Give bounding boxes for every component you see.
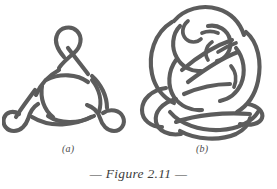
- figure-caption: — Figure 2.11 —: [0, 166, 277, 182]
- figure-page: (a) (b) — Figure 2.11 —: [0, 0, 277, 189]
- figure-illustration-area: (a) (b): [0, 0, 277, 150]
- panel-label-a: (a): [62, 143, 74, 154]
- knot-diagram-b: [136, 0, 277, 150]
- panel-label-b: (b): [196, 143, 208, 154]
- knot-diagram-a: [2, 0, 140, 150]
